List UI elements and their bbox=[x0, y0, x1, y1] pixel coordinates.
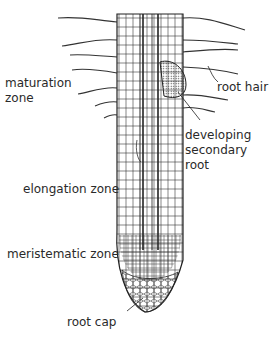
label-root-hair: root hair bbox=[217, 80, 268, 94]
root-illustration bbox=[0, 0, 273, 344]
root-hairs-left bbox=[58, 17, 117, 118]
label-elongation-zone: elongation zone bbox=[23, 182, 119, 196]
label-maturation-zone: maturation bbox=[5, 76, 72, 90]
root-hairs-right bbox=[183, 18, 245, 112]
label-developing-secondary-root-line3: root bbox=[185, 158, 209, 172]
label-maturation-zone-line2: zone bbox=[5, 91, 34, 105]
label-developing-secondary-root: developing bbox=[185, 128, 251, 142]
label-meristematic-zone: meristematic zone bbox=[7, 247, 119, 261]
root-tip-diagram bbox=[0, 0, 273, 344]
label-root-cap: root cap bbox=[67, 315, 116, 329]
label-developing-secondary-root-line2: secondary bbox=[185, 143, 247, 157]
